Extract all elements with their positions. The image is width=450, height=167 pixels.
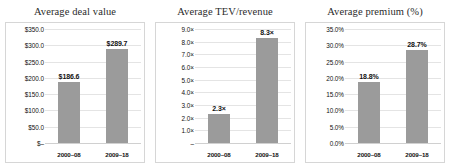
bar-slot: 18.8% <box>345 29 393 143</box>
x-label-slot: 2009–18 <box>243 143 291 161</box>
x-axis-tick-labels: 2000–082009–18 <box>45 145 141 159</box>
y-axis-tick-label: $50.0 <box>28 123 44 130</box>
x-label-slot: 2000–08 <box>195 143 243 161</box>
y-axis-tick-label: – <box>190 140 194 147</box>
bar-value-label: 18.8% <box>359 73 378 80</box>
plot-inner: $–$50.0$100.0$150.0$200.0$250.0$300.0$35… <box>6 23 144 162</box>
bar[interactable]: $186.6 <box>58 82 80 143</box>
y-axis-tick-label: 0.0% <box>330 140 344 147</box>
panel-title: Average TEV/revenue <box>150 0 300 22</box>
panel-title: Average premium (%) <box>300 0 450 22</box>
x-axis-tick-labels: 2000–082009–18 <box>195 145 291 159</box>
x-label-slot: 2000–08 <box>345 143 393 161</box>
bar-series: 2.3×8.3× <box>195 29 291 143</box>
y-axis-tick-label: 20.0% <box>326 74 344 81</box>
bar-value-label: 8.3× <box>260 29 273 36</box>
bar-slot: 28.7% <box>393 29 441 143</box>
y-axis-tick-label: 3.0× <box>182 101 194 108</box>
bar-slot: 2.3× <box>195 29 243 143</box>
bar-value-label: $186.6 <box>59 73 80 80</box>
y-axis-tick-label: $– <box>37 140 44 147</box>
x-axis-tick-label: 2000–08 <box>207 151 230 158</box>
y-axis-tick-label: 4.0× <box>182 89 194 96</box>
x-axis-tick-label: 2009–18 <box>255 151 278 158</box>
y-axis-tick-label: $350.0 <box>25 26 44 33</box>
y-axis-tick-label: 1.0× <box>182 127 194 134</box>
bar[interactable]: 8.3× <box>256 38 278 143</box>
bar-chart-figure: Average deal value $–$50.0$100.0$150.0$2… <box>0 0 450 167</box>
y-axis-tick-labels: 0.0%5.0%10.0%15.0%20.0%25.0%30.0%35.0% <box>308 29 344 143</box>
chart-panel-average-premium: Average premium (%) 0.0%5.0%10.0%15.0%20… <box>300 0 450 167</box>
y-axis-tick-label: 15.0% <box>326 91 344 98</box>
x-label-slot: 2000–08 <box>45 143 93 161</box>
bar-series: $186.6$289.7 <box>45 29 141 143</box>
y-axis-tick-label: 30.0% <box>326 42 344 49</box>
x-axis-tick-labels: 2000–082009–18 <box>345 145 441 159</box>
bar-value-label: 2.3× <box>212 105 225 112</box>
y-axis-tick-label: 35.0% <box>326 26 344 33</box>
y-axis-tick-label: 25.0% <box>326 58 344 65</box>
y-axis-tick-label: $200.0 <box>25 74 44 81</box>
bar-slot: $289.7 <box>93 29 141 143</box>
y-axis-tick-label: 9.0× <box>182 26 194 33</box>
y-axis-tick-label: 5.0× <box>182 76 194 83</box>
y-axis-tick-label: $250.0 <box>25 58 44 65</box>
y-axis-tick-labels: –1.0×2.0×3.0×4.0×5.0×6.0×7.0×8.0×9.0× <box>158 29 194 143</box>
bar-series: 18.8%28.7% <box>345 29 441 143</box>
plot-inner: 0.0%5.0%10.0%15.0%20.0%25.0%30.0%35.0% 1… <box>306 23 444 162</box>
x-label-slot: 2009–18 <box>93 143 141 161</box>
y-axis-tick-label: 8.0× <box>182 38 194 45</box>
y-axis-tick-label: $150.0 <box>25 91 44 98</box>
y-axis-tick-label: 10.0% <box>326 107 344 114</box>
y-axis-tick-label: 7.0× <box>182 51 194 58</box>
chart-panel-average-deal-value: Average deal value $–$50.0$100.0$150.0$2… <box>0 0 150 167</box>
bar[interactable]: 18.8% <box>358 82 380 143</box>
panel-title: Average deal value <box>0 0 150 22</box>
bar[interactable]: 2.3× <box>208 114 230 143</box>
x-axis-tick-label: 2009–18 <box>405 151 428 158</box>
chart-panel-average-tev-revenue: Average TEV/revenue –1.0×2.0×3.0×4.0×5.0… <box>150 0 300 167</box>
bar-value-label: 28.7% <box>407 41 426 48</box>
plot-frame: $–$50.0$100.0$150.0$200.0$250.0$300.0$35… <box>5 22 145 163</box>
plot-frame: –1.0×2.0×3.0×4.0×5.0×6.0×7.0×8.0×9.0× 2.… <box>155 22 295 163</box>
bar-value-label: $289.7 <box>107 40 128 47</box>
y-axis-tick-label: $300.0 <box>25 42 44 49</box>
x-axis-tick-label: 2000–08 <box>57 151 80 158</box>
y-axis-tick-label: $100.0 <box>25 107 44 114</box>
plot-inner: –1.0×2.0×3.0×4.0×5.0×6.0×7.0×8.0×9.0× 2.… <box>156 23 294 162</box>
y-axis-tick-label: 2.0× <box>182 114 194 121</box>
y-axis-tick-label: 6.0× <box>182 63 194 70</box>
bar[interactable]: $289.7 <box>106 49 128 143</box>
y-axis-tick-labels: $–$50.0$100.0$150.0$200.0$250.0$300.0$35… <box>8 29 44 143</box>
y-axis-tick-label: 5.0% <box>330 123 344 130</box>
x-axis-tick-label: 2009–18 <box>105 151 128 158</box>
bar-slot: 8.3× <box>243 29 291 143</box>
plot-frame: 0.0%5.0%10.0%15.0%20.0%25.0%30.0%35.0% 1… <box>305 22 445 163</box>
x-axis-tick-label: 2000–08 <box>357 151 380 158</box>
x-label-slot: 2009–18 <box>393 143 441 161</box>
bar-slot: $186.6 <box>45 29 93 143</box>
bar[interactable]: 28.7% <box>406 50 428 143</box>
